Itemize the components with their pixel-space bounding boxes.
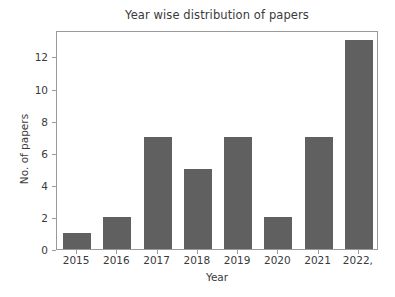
x-tick-mark bbox=[76, 250, 77, 254]
bar-2020 bbox=[264, 217, 292, 249]
bar-2015 bbox=[63, 233, 91, 249]
y-tick-mark bbox=[52, 250, 56, 251]
bar-2018 bbox=[184, 169, 212, 249]
bar-2019 bbox=[224, 137, 252, 249]
x-tick-mark bbox=[197, 250, 198, 254]
x-tick-label-2022: 2022, bbox=[328, 254, 388, 266]
x-tick-mark bbox=[157, 250, 158, 254]
chart-figure: Year wise distribution of papers No. of … bbox=[0, 0, 395, 297]
y-tick-label-0: 0 bbox=[24, 244, 48, 256]
x-tick-mark bbox=[358, 250, 359, 254]
bar-2021 bbox=[305, 137, 333, 249]
x-tick-mark bbox=[237, 250, 238, 254]
y-tick-label-4: 4 bbox=[24, 180, 48, 192]
x-axis-label: Year bbox=[56, 271, 378, 283]
chart-title: Year wise distribution of papers bbox=[56, 8, 378, 22]
y-tick-label-10: 10 bbox=[24, 84, 48, 96]
bar-2017 bbox=[144, 137, 172, 249]
bar-2022 bbox=[345, 40, 373, 249]
x-tick-mark bbox=[116, 250, 117, 254]
plot-area bbox=[56, 31, 378, 250]
x-tick-mark bbox=[277, 250, 278, 254]
y-tick-label-6: 6 bbox=[24, 148, 48, 160]
x-tick-mark bbox=[318, 250, 319, 254]
y-tick-label-12: 12 bbox=[24, 51, 48, 63]
bar-2016 bbox=[103, 217, 131, 249]
y-tick-label-8: 8 bbox=[24, 116, 48, 128]
y-tick-label-2: 2 bbox=[24, 212, 48, 224]
bars-layer bbox=[57, 32, 377, 249]
